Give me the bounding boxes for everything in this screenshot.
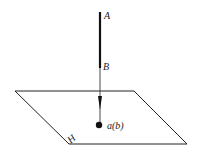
arrow-head-icon	[98, 96, 102, 110]
label-b: B	[103, 61, 109, 72]
projection-diagram: A B a(b) H	[0, 0, 197, 157]
label-projection: a(b)	[107, 120, 124, 132]
label-a: A	[103, 10, 111, 21]
projection-point	[96, 122, 102, 128]
